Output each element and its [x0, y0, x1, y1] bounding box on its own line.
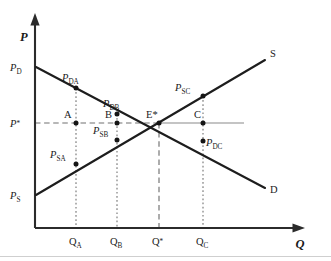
point-marker-p-sb: [115, 138, 120, 143]
point-marker-b: [115, 121, 120, 126]
chart-background: [0, 0, 331, 261]
point-label-c: C: [194, 109, 201, 120]
point-marker-p-sc: [201, 94, 206, 99]
tick-label-q-star: Q*: [152, 236, 164, 247]
supply-demand-figure: P Q PD P* PS QA QB Q*: [0, 0, 331, 261]
supply-demand-chart: P Q PD P* PS QA QB Q*: [0, 0, 331, 261]
point-marker-p-da: [74, 86, 79, 91]
supply-curve-label: S: [270, 48, 276, 59]
quantity-axis-label: Q: [295, 237, 304, 251]
price-axis-label: P: [20, 30, 28, 44]
point-marker-p-dc: [201, 139, 206, 144]
point-label-b: B: [105, 109, 112, 120]
demand-curve-label: D: [270, 184, 278, 195]
point-marker-c: [201, 121, 206, 126]
point-marker-p-sa: [74, 162, 79, 167]
tick-label-p-star: P*: [9, 118, 20, 129]
point-marker-e-star: [157, 121, 162, 126]
point-label-a: A: [64, 109, 72, 120]
point-marker-a: [74, 121, 79, 126]
point-marker-p-db: [115, 112, 120, 117]
point-label-e-star: E*: [146, 109, 158, 120]
